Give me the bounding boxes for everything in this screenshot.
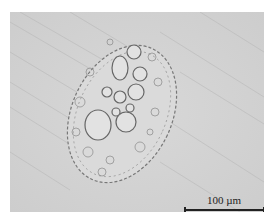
scale-bar: 100 µm [184, 194, 264, 212]
micrograph-image: 100 µm [10, 12, 264, 212]
scale-bar-line [184, 209, 264, 211]
scale-bar-label: 100 µm [184, 194, 264, 206]
micrograph-content [10, 12, 264, 212]
